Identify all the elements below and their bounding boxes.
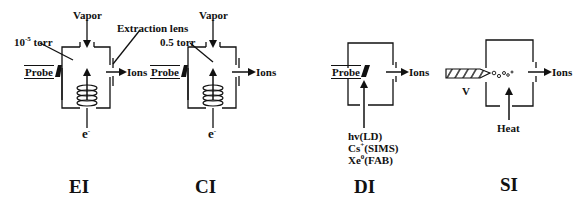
di-title: DI — [354, 177, 375, 197]
ci-vapor-label: Vapor — [199, 9, 228, 21]
di-beam-label-fab: Xe0(FAB) — [348, 154, 393, 166]
ci-ions-label: Ions — [256, 66, 276, 78]
ei-title: EI — [69, 177, 89, 197]
di-beam-label-ld: hv(LD) — [348, 130, 382, 142]
ci-pressure-label: 0.5 torr — [160, 36, 195, 48]
di-beam-label-sims: Cs+(SIMS) — [348, 142, 398, 154]
si-voltage-label: V — [462, 85, 470, 97]
ei-probe-label: Probe — [24, 65, 54, 79]
si-hatched-probe — [446, 69, 490, 78]
ci-probe-tip — [181, 65, 188, 77]
di-ions-label: Ions — [409, 66, 429, 78]
ei-electron-label: e- — [82, 128, 90, 140]
ei-chamber — [40, 30, 140, 128]
ei-ions-label: Ions — [127, 66, 147, 78]
ei-vapor-label: Vapor — [73, 9, 102, 21]
ei-lens-label: Extraction lens — [117, 22, 188, 34]
si-heat-label: Heat — [497, 122, 520, 134]
di-probe-tip — [361, 65, 370, 77]
si-ions-label: Ions — [552, 66, 572, 78]
si-droplets-icon — [492, 71, 513, 78]
ci-probe-label: Probe — [150, 65, 180, 79]
ci-title: CI — [195, 177, 216, 197]
ei-pressure-label: 10-5 torr — [14, 36, 53, 48]
di-probe-label: Probe — [331, 65, 361, 79]
si-title: SI — [500, 175, 518, 195]
ei-probe-tip — [55, 65, 62, 77]
ci-electron-label: e- — [208, 128, 216, 140]
